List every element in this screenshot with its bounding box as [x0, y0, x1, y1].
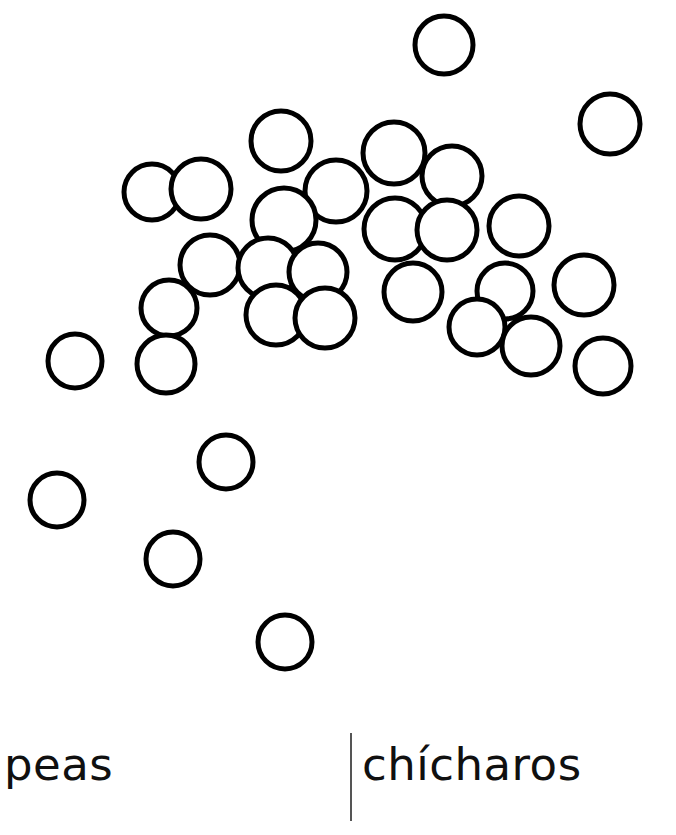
- pea-circle: [171, 159, 231, 219]
- pea-circle: [580, 94, 640, 154]
- label-row: peas chícharos: [0, 710, 676, 835]
- pea-circle: [449, 299, 505, 355]
- pea-circle: [141, 280, 197, 336]
- pea-circle: [295, 288, 355, 348]
- pea-circle: [251, 111, 311, 171]
- pea-circle: [415, 16, 473, 74]
- peas-circles-svg: [0, 0, 676, 710]
- pea-circle: [30, 473, 84, 527]
- pea-circle: [489, 196, 549, 256]
- label-english: peas: [4, 742, 113, 787]
- pea-circle: [502, 317, 560, 375]
- pea-circle: [422, 146, 482, 206]
- pea-circle: [199, 435, 253, 489]
- pea-circle: [363, 122, 425, 184]
- peas-illustration: [0, 0, 676, 710]
- pea-circle: [146, 532, 200, 586]
- pea-circle: [575, 338, 631, 394]
- pea-circle: [417, 200, 477, 260]
- pea-circle: [554, 255, 614, 315]
- pea-circle: [258, 615, 312, 669]
- pea-circle: [137, 335, 195, 393]
- flashcard-page: peas chícharos: [0, 0, 676, 835]
- pea-circle: [384, 263, 442, 321]
- label-divider: [350, 733, 352, 821]
- label-spanish: chícharos: [362, 742, 582, 787]
- pea-circle: [48, 334, 102, 388]
